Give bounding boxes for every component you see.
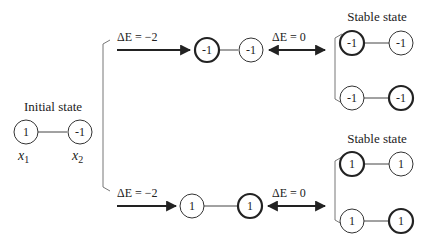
node-value: 1 — [189, 199, 195, 213]
bottom-step2-label: ΔE = 0 — [272, 186, 306, 200]
node-value: -1 — [347, 36, 357, 50]
top-branch: ΔE = −2 -1 -1 ΔE = 0 Stable state -1 -1 … — [117, 9, 413, 110]
node-value: -1 — [396, 91, 406, 105]
top-step2-label: ΔE = 0 — [272, 30, 306, 44]
node-value: 1 — [247, 199, 253, 213]
node-value: 1 — [398, 157, 404, 171]
node-x1-value: 1 — [23, 125, 29, 139]
node-value: -1 — [347, 91, 357, 105]
node-value: -1 — [202, 43, 212, 57]
var-x2-label: x2 — [71, 148, 83, 165]
node-value: 1 — [349, 157, 355, 171]
node-value: -1 — [246, 43, 256, 57]
node-value: -1 — [396, 36, 406, 50]
top-stable-title: Stable state — [347, 9, 407, 24]
var-x1-label: x1 — [17, 148, 29, 165]
state-transition-diagram: Initial state 1 -1 x1 x2 ΔE = −2 -1 -1 Δ… — [0, 0, 447, 251]
branch-bracket-left — [103, 40, 110, 191]
bottom-step1-label: ΔE = −2 — [117, 186, 158, 200]
top-step1-label: ΔE = −2 — [117, 30, 158, 44]
node-value: 1 — [349, 214, 355, 228]
initial-state-title: Initial state — [24, 99, 82, 114]
initial-state: Initial state 1 -1 x1 x2 — [14, 99, 92, 165]
node-value: 1 — [398, 214, 404, 228]
bottom-branch: ΔE = −2 1 1 ΔE = 0 Stable state 1 1 1 1 — [117, 131, 413, 233]
node-x2-value: -1 — [75, 125, 85, 139]
bottom-stable-title: Stable state — [347, 131, 407, 146]
